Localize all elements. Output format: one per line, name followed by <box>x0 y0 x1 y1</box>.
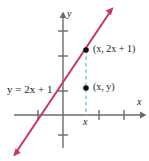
x-axis <box>14 110 147 120</box>
point-upper-label: (x, 2x + 1) <box>93 44 135 54</box>
point-upper <box>83 47 89 53</box>
point-lower <box>83 85 89 91</box>
y-axis-label: y <box>67 9 71 19</box>
x-axis-label: x <box>137 97 141 107</box>
y-axis <box>58 12 68 149</box>
x-axis-arrow <box>140 112 147 119</box>
graph-figure: y = 2x + 1 (x, 2x + 1) (x, y) x y x <box>0 0 149 161</box>
equation-label: y = 2x + 1 <box>7 84 52 95</box>
x-tick-label: x <box>83 117 87 127</box>
point-lower-label: (x, y) <box>93 82 115 92</box>
line-arrow-top <box>106 7 114 15</box>
y-axis-arrow <box>60 12 67 19</box>
graph-canvas <box>0 0 149 161</box>
